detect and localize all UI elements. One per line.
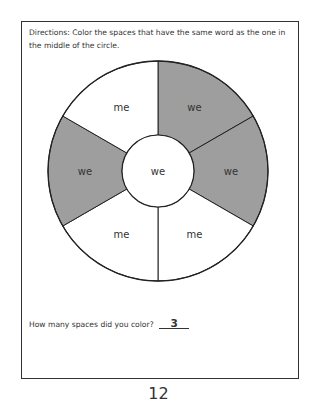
sector-word: we — [224, 166, 238, 177]
question-text: How many spaces did you color? — [29, 320, 154, 329]
page-number: 12 — [0, 384, 317, 403]
answer-field[interactable]: 3 — [159, 318, 189, 329]
sector-word: me — [114, 229, 130, 240]
center-word: we — [151, 166, 165, 177]
sector-word: me — [187, 229, 203, 240]
sector-word: we — [187, 102, 201, 113]
sector-word: we — [78, 166, 92, 177]
word-wheel: we wewememeweme — [0, 0, 317, 412]
question-line: How many spaces did you color? 3 — [29, 318, 189, 329]
sector-word: me — [114, 102, 130, 113]
